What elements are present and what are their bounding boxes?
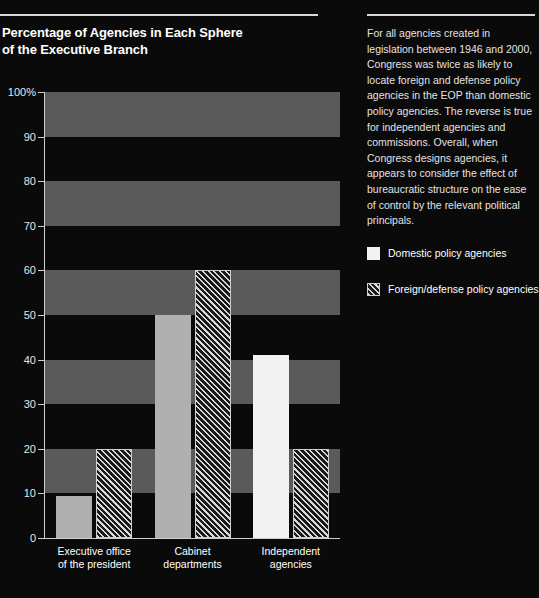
y-axis-tick-mark <box>38 137 44 138</box>
legend-item-domestic: Domestic policy agencies <box>367 246 535 260</box>
bar-foreign-defense <box>96 449 132 538</box>
y-axis-tick-label: 70 <box>0 221 36 232</box>
y-axis-tick-label: 90 <box>0 132 36 143</box>
explanatory-note: For all agencies created in legislation … <box>367 26 535 229</box>
side-panel: For all agencies created in legislation … <box>348 0 535 598</box>
y-axis-tick-label: 10 <box>0 488 36 499</box>
bar-domestic <box>56 496 92 538</box>
y-axis-tick-mark <box>38 181 44 182</box>
y-axis-tick-mark <box>38 92 44 93</box>
y-axis-tick-label: 40 <box>0 355 36 366</box>
y-axis-tick-mark <box>38 493 44 494</box>
y-axis-tick-label: 100% <box>0 87 36 98</box>
y-axis-tick-mark <box>38 404 44 405</box>
side-top-rule <box>367 14 535 16</box>
legend-label-domestic: Domestic policy agencies <box>388 247 506 260</box>
chart-title: Percentage of Agencies in Each Sphere of… <box>2 24 314 58</box>
legend-item-foreign-defense: Foreign/defense policy agencies <box>367 282 535 296</box>
x-axis-group-label: Independent agencies <box>242 545 340 571</box>
x-axis-group-label: Cabinet departments <box>143 545 241 571</box>
solid-white-square-icon <box>367 247 380 260</box>
x-axis-line <box>44 538 340 539</box>
legend-label-foreign-defense: Foreign/defense policy agencies <box>388 283 539 296</box>
y-axis-tick-mark <box>38 226 44 227</box>
y-axis-tick-mark <box>38 315 44 316</box>
y-axis-tick-label: 30 <box>0 399 36 410</box>
chart-legend: Domestic policy agencies Foreign/defense… <box>367 246 535 318</box>
bar-foreign-defense <box>293 449 329 538</box>
y-axis-tick-label: 0 <box>0 533 36 544</box>
y-axis-tick-label: 80 <box>0 176 36 187</box>
y-axis-tick-label: 60 <box>0 265 36 276</box>
y-axis-tick-mark <box>38 538 44 539</box>
x-axis-group-label: Executive office of the president <box>45 545 143 571</box>
chart-top-rule <box>0 14 318 16</box>
chart-panel: Percentage of Agencies in Each Sphere of… <box>0 0 318 598</box>
y-axis-tick-label: 20 <box>0 444 36 455</box>
y-axis-tick-mark <box>38 270 44 271</box>
y-axis-tick-mark <box>38 449 44 450</box>
bar-domestic <box>253 355 289 538</box>
bar-domestic <box>155 315 191 538</box>
plot-area <box>45 92 340 538</box>
y-axis-tick-label: 50 <box>0 310 36 321</box>
diagonal-hatch-square-icon <box>367 283 380 296</box>
bar-foreign-defense <box>195 270 231 538</box>
y-axis-tick-mark <box>38 360 44 361</box>
